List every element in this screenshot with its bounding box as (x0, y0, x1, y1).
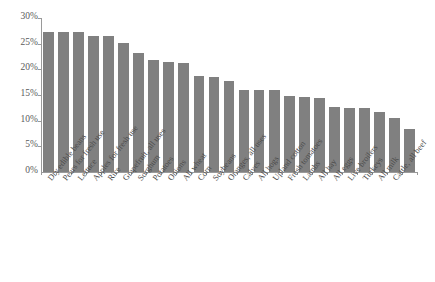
y-axis-tick-label: 30% (21, 11, 38, 21)
y-axis-tick-label: 20% (21, 62, 38, 72)
bar (209, 77, 220, 172)
bar-chart-figure: 30%25%20%15%10%5%0% Dry edible beansPear… (0, 0, 435, 282)
y-axis-tick-label: 5% (25, 139, 38, 149)
x-axis-labels: Dry edible beansPears for fresh useLettu… (41, 177, 435, 282)
y-axis-tick-label: 0% (25, 165, 38, 175)
bar (43, 32, 54, 172)
x-axis-tick-mark (417, 172, 418, 175)
bar (178, 63, 189, 172)
y-axis-tick-label: 25% (21, 37, 38, 47)
x-axis-tick-mark (41, 172, 42, 175)
y-axis-tick-label: 10% (21, 114, 38, 124)
bars-layer (41, 14, 419, 172)
y-axis-tick-label: 15% (21, 88, 38, 98)
